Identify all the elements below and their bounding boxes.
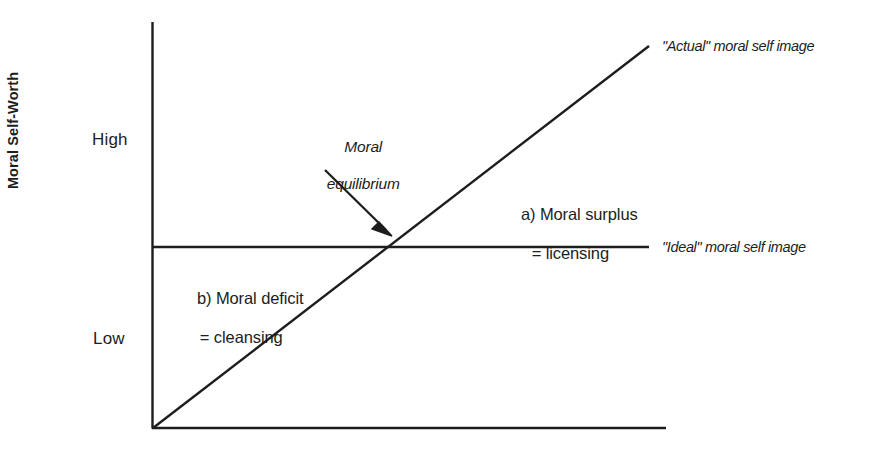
moral-equilibrium-annotation: Moral equilibrium	[290, 120, 420, 211]
moral-deficit-line-1: b) Moral deficit	[197, 289, 304, 307]
moral-self-regulation-diagram: Moral Self-Worth High Low Moral equilibr…	[0, 0, 886, 470]
moral-equilibrium-line-1: Moral	[344, 138, 382, 155]
diagram-lines	[0, 0, 886, 470]
moral-equilibrium-line-2: equilibrium	[327, 175, 400, 192]
y-axis-title: Moral Self-Worth	[5, 49, 22, 189]
region-label-moral-deficit: b) Moral deficit = cleansing	[179, 270, 304, 387]
y-tick-label-high: High	[92, 130, 128, 150]
region-label-moral-surplus: a) Moral surplus = licensing	[503, 186, 638, 303]
moral-surplus-line-1: a) Moral surplus	[521, 205, 638, 223]
moral-surplus-line-2: = licensing	[503, 244, 638, 263]
moral-deficit-line-2: = cleansing	[179, 328, 304, 347]
curve-label-ideal-moral-self-image: "Ideal" moral self image	[662, 239, 806, 256]
y-tick-label-low: Low	[93, 329, 125, 349]
curve-label-actual-moral-self-image: "Actual" moral self image	[662, 38, 814, 55]
